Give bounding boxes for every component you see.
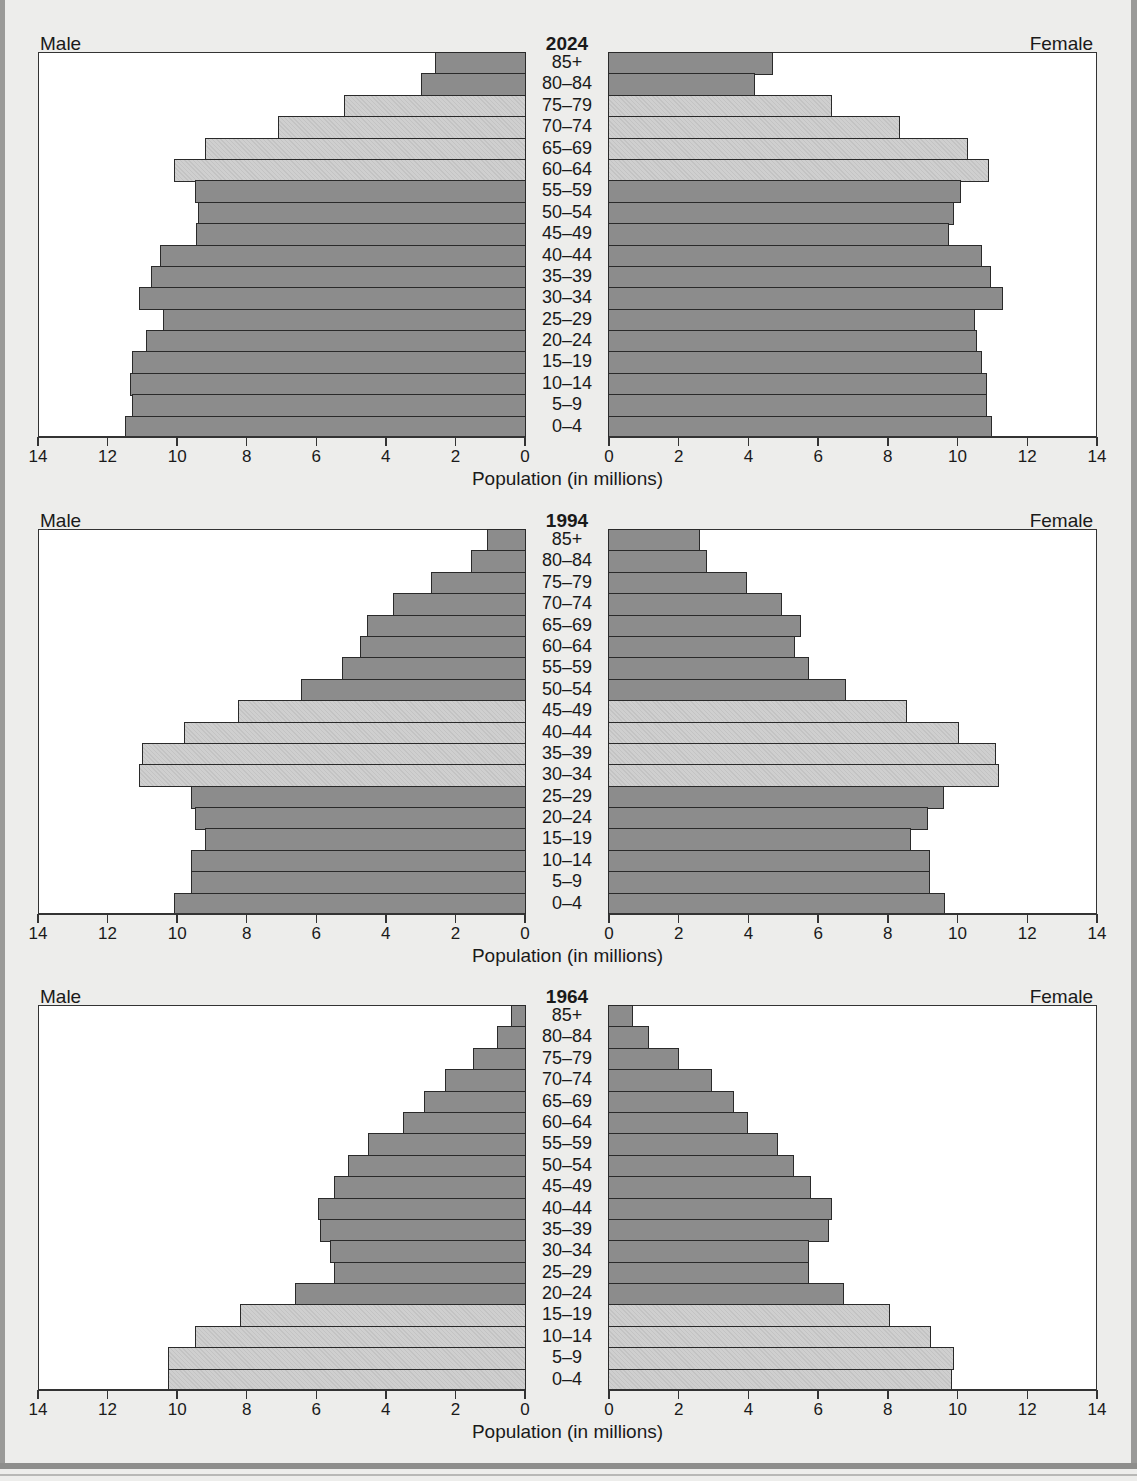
axis-tick <box>887 1390 889 1399</box>
male-bar <box>445 1069 526 1092</box>
age-group-label: 45–49 <box>527 223 607 244</box>
male-bar <box>198 202 526 225</box>
axis-tick-label: 12 <box>88 447 128 467</box>
age-group-label: 30–34 <box>527 1240 607 1261</box>
axis-tick <box>1027 914 1029 923</box>
axis-tick-label: 0 <box>589 447 629 467</box>
male-bar <box>435 52 526 75</box>
axis-tick-label: 6 <box>296 924 336 944</box>
male-bar <box>142 743 526 766</box>
female-bar <box>608 330 977 353</box>
axis-tick <box>1027 437 1029 446</box>
female-x-axis: 02468101214 <box>609 437 1097 447</box>
male-bar <box>393 593 526 616</box>
male-bar <box>471 550 526 573</box>
female-plot-area <box>609 1005 1097 1390</box>
female-bar <box>608 1347 954 1370</box>
female-bar <box>608 828 911 851</box>
female-bar <box>608 1005 633 1028</box>
age-group-label: 35–39 <box>527 1219 607 1240</box>
age-group-label: 55–59 <box>527 180 607 201</box>
female-bar <box>608 679 846 702</box>
axis-tick-label: 4 <box>366 447 406 467</box>
male-bar <box>342 657 526 680</box>
age-group-label: 50–54 <box>527 202 607 223</box>
age-group-label: 35–39 <box>527 743 607 764</box>
male-bar <box>195 1326 526 1349</box>
female-bar <box>608 266 991 289</box>
male-x-axis: 02468101214 <box>38 1390 525 1400</box>
female-bar <box>608 1133 778 1156</box>
axis-tick <box>176 437 178 446</box>
male-bar <box>205 828 526 851</box>
male-bar <box>367 615 526 638</box>
female-bar <box>608 351 982 374</box>
axis-tick-label: 12 <box>1007 924 1047 944</box>
female-bar <box>608 764 999 787</box>
female-bar <box>608 636 795 659</box>
female-bar <box>608 743 996 766</box>
female-bar <box>608 1304 890 1327</box>
female-bar <box>608 700 907 723</box>
frame-left-border <box>0 0 5 1468</box>
age-group-label: 0–4 <box>527 893 607 914</box>
male-bar <box>318 1198 526 1221</box>
axis-tick-label: 10 <box>157 1400 197 1420</box>
male-bar <box>497 1026 526 1049</box>
axis-tick <box>37 914 39 923</box>
age-group-label: 15–19 <box>527 1304 607 1325</box>
axis-tick <box>316 1390 318 1399</box>
age-group-label: 50–54 <box>527 679 607 700</box>
male-bar <box>151 266 526 289</box>
age-group-label: 0–4 <box>527 416 607 437</box>
female-bar <box>608 786 944 809</box>
male-x-axis: 02468101214 <box>38 914 525 924</box>
axis-line <box>609 436 1097 438</box>
age-group-label: 40–44 <box>527 722 607 743</box>
male-bar <box>132 394 526 417</box>
male-bar <box>238 700 526 723</box>
female-bar <box>608 1283 844 1306</box>
male-bar <box>368 1133 526 1156</box>
age-group-label: 40–44 <box>527 1198 607 1219</box>
female-bar <box>608 1112 748 1135</box>
x-axis-title: Population (in millions) <box>400 468 735 490</box>
age-group-label: 85+ <box>527 529 607 550</box>
male-bar <box>139 287 526 310</box>
axis-tick-label: 0 <box>589 1400 629 1420</box>
x-axis-title: Population (in millions) <box>400 945 735 967</box>
axis-line <box>38 1389 525 1391</box>
axis-tick-label: 8 <box>227 924 267 944</box>
male-bar <box>424 1091 526 1114</box>
age-group-label: 80–84 <box>527 73 607 94</box>
axis-tick <box>107 437 109 446</box>
axis-tick-label: 14 <box>18 447 58 467</box>
female-bar <box>608 807 928 830</box>
age-group-label: 60–64 <box>527 159 607 180</box>
female-bar <box>608 1198 832 1221</box>
female-bar <box>608 615 801 638</box>
female-bar <box>608 159 989 182</box>
axis-tick-label: 10 <box>938 924 978 944</box>
age-group-label: 60–64 <box>527 1112 607 1133</box>
axis-tick <box>455 1390 457 1399</box>
axis-tick-label: 4 <box>728 447 768 467</box>
axis-tick-label: 12 <box>1007 447 1047 467</box>
male-bar <box>295 1283 526 1306</box>
age-group-label: 5–9 <box>527 871 607 892</box>
age-group-label: 5–9 <box>527 394 607 415</box>
age-group-label: 35–39 <box>527 266 607 287</box>
female-bar <box>608 287 1003 310</box>
female-bar <box>608 572 747 595</box>
axis-tick <box>1096 1390 1098 1399</box>
female-bar <box>608 394 987 417</box>
age-group-label: 40–44 <box>527 245 607 266</box>
male-bar <box>334 1262 526 1285</box>
male-bar <box>168 1347 526 1370</box>
axis-tick <box>678 914 680 923</box>
female-bar <box>608 116 900 139</box>
age-group-label: 60–64 <box>527 636 607 657</box>
axis-tick-label: 0 <box>589 924 629 944</box>
male-bar <box>163 309 526 332</box>
axis-tick <box>1027 1390 1029 1399</box>
